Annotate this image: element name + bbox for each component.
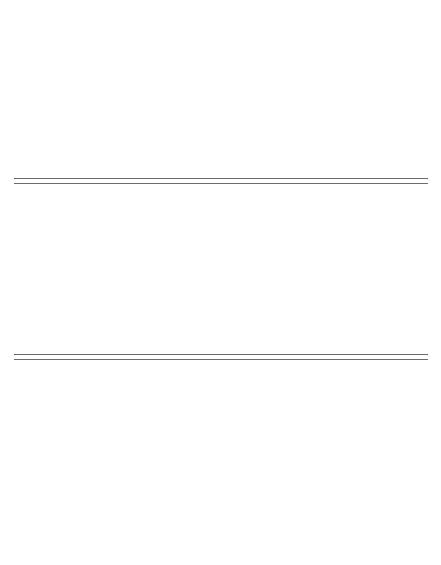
chart-damaged-bolls	[0, 362, 441, 565]
panel-divider-rule	[14, 359, 428, 360]
chart-bollworm-population	[0, 0, 441, 178]
panel-divider-rule	[14, 183, 428, 184]
chart-predator-population	[0, 185, 441, 355]
panel-divider-rule	[14, 178, 428, 179]
figure-root	[0, 0, 441, 565]
